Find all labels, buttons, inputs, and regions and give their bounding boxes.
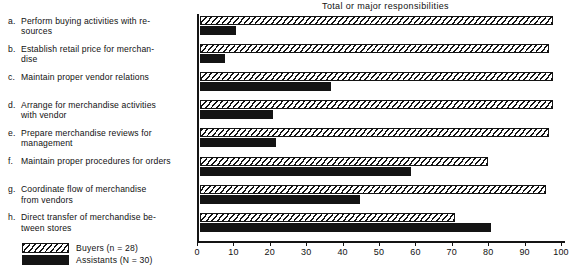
x-tick-80	[488, 241, 489, 246]
category-label-e: e.Prepare merchandise reviews formanagem…	[8, 128, 194, 149]
x-tick-label-50: 50	[374, 247, 384, 257]
bar-chart: Total or major responsibilities a.Perfor…	[0, 0, 575, 275]
category-letter: a.	[8, 16, 17, 37]
x-tick-label-20: 20	[265, 247, 275, 257]
bar-e-assistants	[200, 138, 276, 147]
category-text: Arrange for merchandise activitieswith v…	[21, 100, 194, 121]
x-tick-10	[233, 241, 234, 246]
bar-d-assistants	[200, 110, 273, 119]
x-tick-30	[306, 241, 307, 246]
x-tick-40	[343, 241, 344, 246]
category-label-h: h.Direct transfer of merchandise be-twee…	[8, 212, 194, 233]
legend-swatch-solid	[22, 255, 69, 265]
category-letter: b.	[8, 44, 17, 65]
x-tick-60	[415, 241, 416, 246]
x-tick-label-10: 10	[228, 247, 238, 257]
x-tick-label-100: 100	[553, 247, 569, 257]
x-tick-label-40: 40	[337, 247, 347, 257]
category-label-d: d.Arrange for merchandise activitieswith…	[8, 100, 194, 121]
category-text: Maintain proper vendor relations	[21, 72, 194, 83]
legend-label: Assistants (N = 30)	[76, 255, 153, 265]
chart-title: Total or major responsibilities	[196, 1, 575, 11]
category-letter: g.	[8, 184, 17, 205]
x-tick-50	[379, 241, 380, 246]
category-label-c: c.Maintain proper vendor relations	[8, 72, 194, 83]
legend-swatch-hatch	[22, 243, 69, 253]
category-text: Maintain proper procedures for orders	[21, 156, 194, 167]
x-tick-20	[270, 241, 271, 246]
x-tick-label-80: 80	[483, 247, 493, 257]
category-letter: h.	[8, 212, 17, 233]
category-letter: e.	[8, 128, 17, 149]
bar-f-buyers	[200, 157, 488, 166]
x-tick-0	[197, 241, 198, 246]
x-tick-label-60: 60	[410, 247, 420, 257]
x-tick-100	[561, 241, 562, 246]
category-text: Perform buying activities with re-source…	[21, 16, 194, 37]
bar-g-assistants	[200, 195, 360, 204]
x-tick-label-30: 30	[301, 247, 311, 257]
category-label-list: a.Perform buying activities with re-sour…	[0, 14, 196, 239]
x-tick-90	[525, 241, 526, 246]
bar-e-buyers	[200, 128, 549, 137]
legend-label: Buyers (n = 28)	[76, 243, 138, 253]
category-label-b: b.Establish retail price for merchan-dis…	[8, 44, 194, 65]
category-text: Prepare merchandise reviews formanagemen…	[21, 128, 194, 149]
category-text: Coordinate flow of merchandisefrom vendo…	[21, 184, 194, 205]
bar-f-assistants	[200, 167, 411, 176]
category-label-g: g.Coordinate flow of merchandisefrom ven…	[8, 184, 194, 205]
bar-c-assistants	[200, 82, 331, 91]
bar-b-assistants	[200, 54, 225, 63]
x-tick-label-90: 90	[519, 247, 529, 257]
x-tick-label-70: 70	[447, 247, 457, 257]
category-label-a: a.Perform buying activities with re-sour…	[8, 16, 194, 37]
bar-h-assistants	[200, 223, 491, 232]
category-letter: f.	[8, 156, 17, 167]
x-axis-line	[197, 241, 565, 243]
category-letter: d.	[8, 100, 17, 121]
category-text: Establish retail price for merchan-dise	[21, 44, 194, 65]
bar-a-assistants	[200, 26, 236, 35]
bar-a-buyers	[200, 16, 553, 25]
chart-legend: Buyers (n = 28)Assistants (N = 30)	[22, 242, 153, 266]
bar-g-buyers	[200, 185, 546, 194]
category-text: Direct transfer of merchandise be-tween …	[21, 212, 194, 233]
category-label-f: f.Maintain proper procedures for orders	[8, 156, 194, 167]
x-tick-70	[452, 241, 453, 246]
x-tick-label-0: 0	[194, 247, 199, 257]
bar-h-buyers	[200, 213, 455, 222]
category-letter: c.	[8, 72, 17, 83]
legend-entry-buyers: Buyers (n = 28)	[22, 242, 153, 254]
bar-b-buyers	[200, 44, 549, 53]
bar-c-buyers	[200, 72, 553, 81]
plot-area: 0102030405060708090100	[200, 14, 564, 239]
y-axis-line	[197, 14, 199, 241]
bar-d-buyers	[200, 100, 553, 109]
legend-entry-assistants: Assistants (N = 30)	[22, 254, 153, 266]
